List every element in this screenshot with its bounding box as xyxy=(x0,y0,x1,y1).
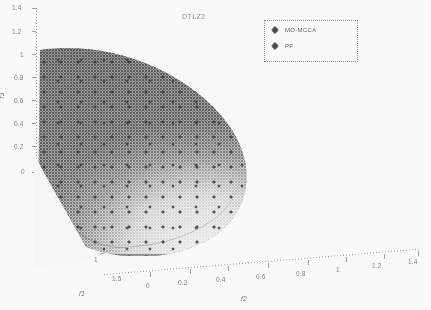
legend-entry-momcca: MO-MCCA xyxy=(271,26,316,33)
x-tick-label: 0.2 xyxy=(178,279,188,286)
asterisk-marker-icon xyxy=(271,26,278,33)
x-tick-label: 1.4 xyxy=(408,258,418,265)
legend-label: PF xyxy=(285,43,293,49)
pareto-surface xyxy=(36,42,296,260)
depth-axis-label: f1 xyxy=(79,290,85,297)
x-tick-label: 0.6 xyxy=(256,273,266,280)
x-tick-label: 1.2 xyxy=(372,262,382,269)
legend: MO-MCCA PF xyxy=(264,20,358,62)
z-tick-label: 0.6 xyxy=(14,97,24,104)
x-tick xyxy=(228,266,229,271)
z-tick xyxy=(32,31,36,32)
z-tick-label: 0.2 xyxy=(14,143,24,150)
x-tick-label: 1 xyxy=(336,266,340,273)
z-tick-label: 1 xyxy=(20,51,24,58)
legend-entry-pf: PF xyxy=(271,42,293,49)
z-tick-label: 0.8 xyxy=(14,74,24,81)
x-axis-label: f2 xyxy=(241,295,247,302)
x-tick xyxy=(308,260,309,265)
depth-tick-label: 1.5 xyxy=(112,275,122,282)
x-tick xyxy=(190,269,191,274)
z-tick-label: 0 xyxy=(21,168,25,175)
chart-title: DTLZ2 xyxy=(182,13,205,20)
x-tick-label: 0.8 xyxy=(296,270,306,277)
z-tick-label: 1.4 xyxy=(12,4,22,11)
pareto-front-3d-plot: DTLZ2 1.4 1.2 1 0.8 0.6 0.4 0.2 0 f3 0.5… xyxy=(0,0,431,310)
x-tick-label: 0 xyxy=(146,282,150,289)
dot-marker-icon xyxy=(271,42,278,49)
x-tick xyxy=(418,251,419,256)
x-tick xyxy=(268,263,269,268)
x-tick xyxy=(384,254,385,259)
x-tick-label: 0.4 xyxy=(216,276,226,283)
z-tick-label: 0.4 xyxy=(14,120,24,127)
z-tick xyxy=(32,8,36,9)
z-tick-label: 1.2 xyxy=(12,28,22,35)
legend-label: MO-MCCA xyxy=(285,27,316,33)
x-tick xyxy=(346,257,347,262)
z-axis-label: f3 xyxy=(0,93,5,99)
x-tick xyxy=(150,272,151,277)
